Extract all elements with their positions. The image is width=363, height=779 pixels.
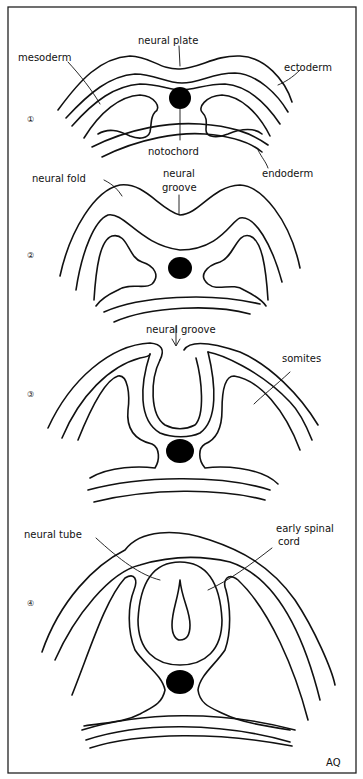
label-neural-plate: neural plate: [138, 35, 198, 46]
label-ectoderm: ectoderm: [284, 62, 332, 73]
endoderm-base-line-4: [90, 736, 292, 748]
label-neural-fold: neural fold: [32, 173, 86, 184]
stage-3-number-circle: ③: [27, 390, 34, 399]
somite-left-outer-3: [62, 354, 150, 438]
mesoderm-right-lobe-2: [204, 236, 268, 306]
neural-tube-leader: [96, 538, 160, 580]
stage-4-number-circle: ④: [27, 599, 34, 608]
label-early-spinal-cord-line2: cord: [278, 536, 300, 547]
endoderm-leader: [258, 150, 268, 168]
notochord-stage-3: [166, 439, 194, 463]
somite-right-4: [198, 577, 308, 730]
notochord-stage-4: [166, 670, 194, 694]
neural-plate-leader: [179, 46, 180, 66]
stage-4: ④ neural tube early spinal cord: [24, 523, 335, 748]
label-notochord: notochord: [148, 146, 199, 157]
neural-tube-outline: [138, 562, 222, 665]
label-somites: somites: [282, 353, 321, 364]
artist-signature: AQ: [326, 757, 341, 768]
endoderm-inner-line-4: [86, 727, 290, 742]
early-spinal-cord-leader: [208, 548, 272, 590]
endoderm-outer-line-2: [104, 297, 260, 312]
figure-border: [8, 7, 356, 773]
notochord-stage-2: [168, 257, 192, 279]
neural-groove-u-outer: [153, 358, 201, 429]
stage-3: ③ neural groove somites: [27, 324, 321, 502]
endoderm-inner-line-3: [94, 491, 265, 502]
label-neural-groove: neural groove: [146, 324, 216, 335]
somite-left-4: [72, 576, 165, 726]
label-neural-tube: neural tube: [24, 529, 82, 540]
diagram-canvas: ① neural plate mesoderm ectoderm notocho…: [0, 0, 363, 779]
central-canal: [172, 580, 190, 640]
label-early-spinal-cord-line1: early spinal: [276, 523, 334, 534]
endoderm-outer-line-3: [88, 479, 270, 490]
stage-1-number-circle: ①: [27, 115, 34, 124]
stage-2: ② neural fold neural groove: [27, 168, 300, 322]
stage-2-number-circle: ②: [27, 251, 34, 260]
label-mesoderm: mesoderm: [18, 52, 71, 63]
mesoderm-left-lobe: [84, 95, 158, 138]
diagram-figure: ① neural plate mesoderm ectoderm notocho…: [0, 0, 363, 779]
somite-right-3: [200, 376, 300, 484]
stage-1: ① neural plate mesoderm ectoderm notocho…: [18, 35, 332, 179]
label-neural-groove-line1: neural: [163, 168, 195, 179]
mesoderm-left-lobe-2: [94, 236, 156, 306]
mesoderm-right-lobe: [201, 95, 270, 137]
endoderm-inner-line-2: [114, 308, 250, 322]
endoderm-outer-line-4: [82, 716, 295, 730]
label-neural-groove-line2: groove: [162, 182, 197, 193]
notochord-stage-1: [169, 87, 191, 109]
label-endoderm: endoderm: [262, 168, 313, 179]
